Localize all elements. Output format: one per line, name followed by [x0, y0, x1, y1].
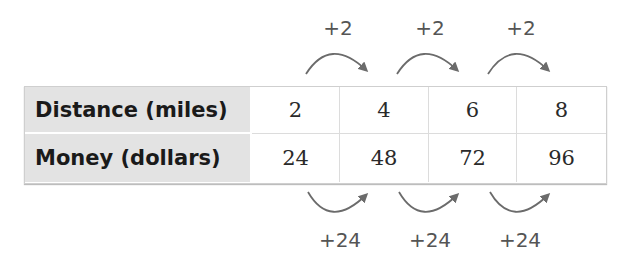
bottom-step-label-2: +24: [409, 228, 451, 252]
bottom-step-label-1: +24: [319, 228, 361, 252]
top-arrow-2-icon: [397, 54, 457, 74]
top-arrow-3-icon: [488, 54, 548, 74]
bottom-arrow-2-icon: [399, 192, 457, 212]
top-arrow-1-icon: [306, 54, 366, 74]
top-step-label-2: +2: [415, 16, 444, 40]
top-step-label-1: +2: [323, 16, 352, 40]
bottom-step-label-3: +24: [499, 228, 541, 252]
top-step-label-3: +2: [506, 16, 535, 40]
bottom-arrow-1-icon: [308, 192, 366, 212]
bottom-arrow-3-icon: [490, 192, 548, 212]
